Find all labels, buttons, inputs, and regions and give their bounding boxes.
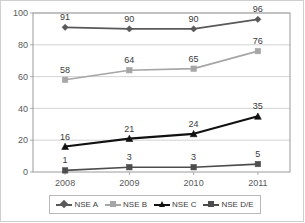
data-point-label: 3 [191,152,196,162]
legend-marker-icon [105,200,121,209]
x-tick-label: 2008 [55,178,75,188]
data-point-label: 96 [253,4,263,14]
y-tick-label: 40 [18,104,28,114]
data-point-marker [255,161,260,166]
chart-svg: 020406080100 2008200920102011 9190909658… [0,0,305,223]
data-point-marker [126,26,132,32]
y-tick-label: 20 [18,135,28,145]
series-markers [62,16,262,173]
legend-item-label: NSE D/E [221,200,253,209]
legend-item-nse-a[interactable]: NSE A [56,200,98,209]
data-point-marker [127,165,132,170]
y-tick-label: 60 [18,72,28,82]
x-tick-label: 2011 [248,178,267,188]
plot-border [33,13,290,175]
legend-marker-icon [203,200,219,209]
data-point-marker [255,16,261,22]
data-point-marker [191,165,196,170]
data-point-marker [191,66,196,71]
y-axis-tick-labels: 020406080100 [13,8,28,177]
data-point-label: 16 [60,132,70,142]
legend-item-nse-c[interactable]: NSE C [154,200,196,209]
series-line [65,51,258,80]
x-tick-label: 2009 [119,178,139,188]
y-tick-label: 0 [23,167,28,177]
data-point-label: 90 [124,14,134,24]
chart-legend: NSE ANSE BNSE CNSE D/E [49,195,261,214]
legend-item-nse-b[interactable]: NSE B [105,200,147,209]
data-point-label: 3 [127,152,132,162]
legend-item-label: NSE B [123,200,147,209]
line-chart: 020406080100 2008200920102011 9190909658… [0,0,305,223]
series-line [65,116,258,146]
data-point-label: 24 [189,119,199,129]
series-lines [65,19,258,170]
data-point-label: 65 [189,54,199,64]
gridlines [30,13,290,172]
series-line [65,19,258,29]
data-point-marker [62,77,67,82]
data-point-marker [191,26,197,32]
data-point-marker [62,168,67,173]
data-point-marker [62,24,68,30]
y-tick-label: 80 [18,40,28,50]
data-point-label: 1 [63,155,68,165]
data-point-label: 35 [253,101,263,111]
x-tick-label: 2010 [184,178,204,188]
legend-marker-icon [56,200,72,209]
legend-item-label: NSE A [74,200,98,209]
data-point-label: 64 [124,55,134,65]
plot-area-wrapper: 020406080100 2008200920102011 9190909658… [0,0,305,223]
data-point-label: 21 [124,124,134,134]
data-point-label: 90 [189,14,199,24]
data-point-label: 76 [253,36,263,46]
data-point-label: 58 [60,65,70,75]
legend-item-nse-d-e[interactable]: NSE D/E [203,200,253,209]
data-point-marker [127,68,132,73]
legend-marker-icon [154,200,170,209]
series-line [65,164,258,170]
data-point-label: 91 [60,12,70,22]
legend-item-label: NSE C [172,200,196,209]
data-point-label: 5 [255,149,260,159]
y-tick-label: 100 [13,8,28,18]
data-point-marker [255,48,260,53]
x-axis-tick-labels: 2008200920102011 [55,178,267,188]
